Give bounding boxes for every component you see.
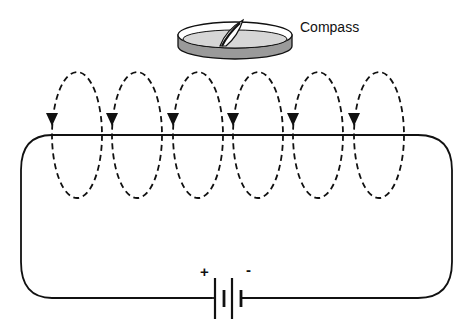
positive-terminal-label: + <box>200 263 209 280</box>
arrow-down-icon <box>167 113 179 126</box>
arrow-down-icon <box>287 113 299 126</box>
arrow-down-icon <box>46 113 58 126</box>
field-direction-arrows <box>46 113 360 126</box>
negative-terminal-label: - <box>246 261 251 278</box>
arrow-down-icon <box>348 113 360 126</box>
compass-icon <box>178 20 292 59</box>
arrow-down-icon <box>106 113 118 126</box>
compass-label: Compass <box>300 19 359 35</box>
arrow-down-icon <box>227 113 239 126</box>
battery-icon <box>212 278 244 319</box>
circuit-diagram: Compass + - <box>0 0 466 335</box>
circuit-wire <box>21 135 452 298</box>
